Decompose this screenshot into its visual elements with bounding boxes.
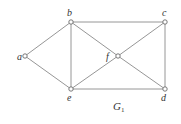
vertex-c	[163, 20, 167, 24]
graph-caption: G1	[113, 100, 125, 114]
vertices	[23, 20, 167, 91]
edge-e-f	[71, 56, 118, 89]
vertex-label-f: f	[106, 51, 110, 62]
caption-main: G	[113, 100, 121, 112]
vertex-d	[163, 87, 167, 91]
vertex-label-c: c	[162, 7, 167, 18]
caption-subscript: 1	[121, 106, 125, 114]
edge-f-d	[118, 56, 165, 89]
vertex-label-a: a	[17, 51, 22, 62]
edge-f-c	[118, 22, 165, 56]
vertex-b	[69, 20, 73, 24]
graph-g1: abcfed G1	[0, 0, 181, 124]
vertex-label-d: d	[161, 92, 167, 103]
vertex-e	[69, 87, 73, 91]
edge-a-e	[25, 56, 71, 89]
edge-b-f	[71, 22, 118, 56]
vertex-label-e: e	[67, 92, 72, 103]
graph-diagram: abcfed G1	[0, 0, 181, 124]
edge-a-b	[25, 22, 71, 56]
vertex-a	[23, 54, 27, 58]
vertex-f	[116, 54, 120, 58]
edges	[25, 22, 165, 89]
vertex-label-b: b	[67, 7, 72, 18]
